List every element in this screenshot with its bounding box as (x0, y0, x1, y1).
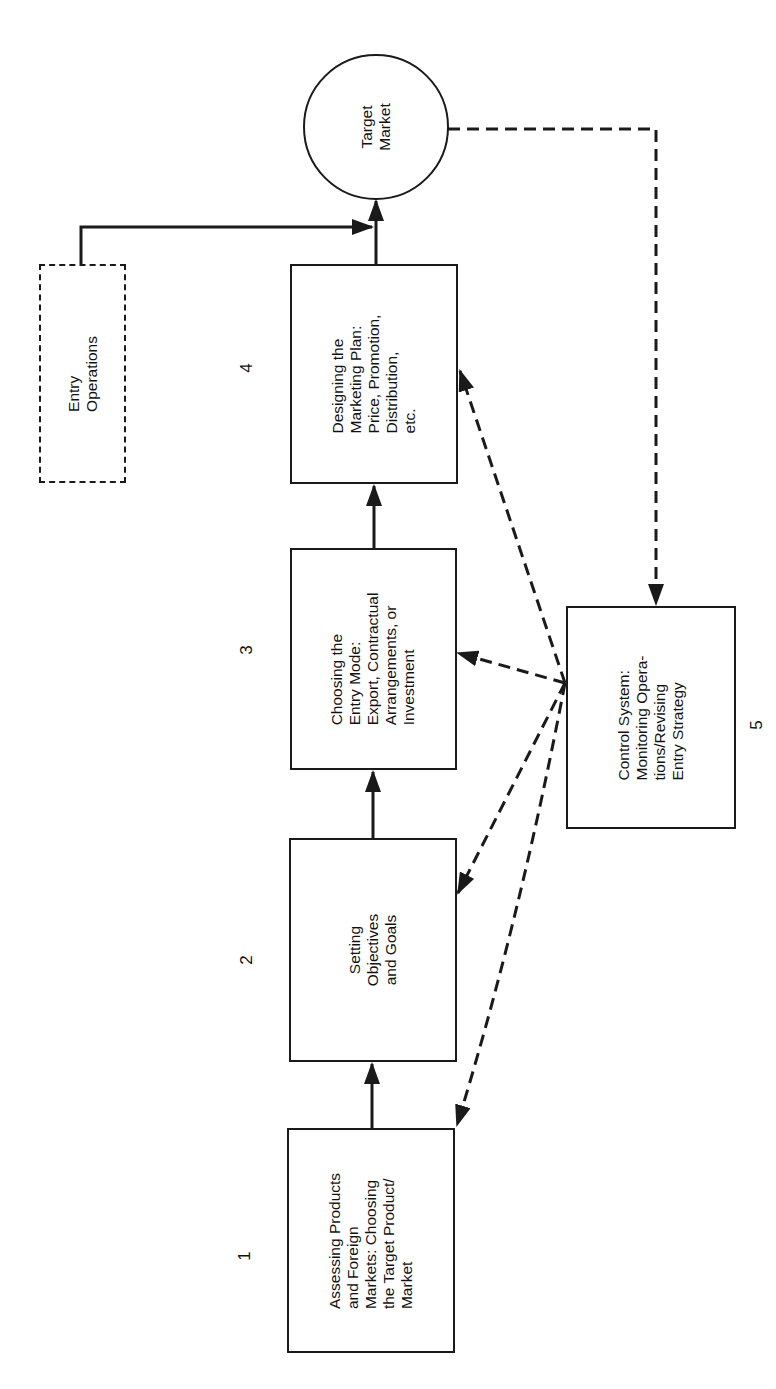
step3-number: 3 (237, 645, 257, 654)
step4-number: 4 (237, 363, 257, 372)
arrow-target-market-to-control (448, 129, 656, 604)
entry-operations-label: Entry Operations (64, 336, 100, 412)
step4-label: Designing the Marketing Plan: Price, Pro… (329, 315, 419, 434)
arrow-control-to-step2 (458, 683, 565, 893)
arrow-control-to-step1 (457, 683, 565, 1125)
step1-number: 1 (235, 1251, 255, 1260)
control-system-label: Control System: Monitoring Opera- tions/… (615, 655, 687, 780)
target-market-label: Target Market (358, 103, 394, 150)
arrow-entry-ops-to-target-market (81, 227, 372, 264)
arrow-control-to-step3 (458, 653, 565, 683)
step2-number: 2 (237, 955, 257, 964)
step2-label: Setting Objectives and Goals (346, 914, 400, 986)
step3-label: Choosing the Entry Mode: Export, Contrac… (329, 593, 419, 726)
arrow-control-to-step4 (460, 371, 565, 683)
step1-label: Assessing Products and Foreign Markets: … (326, 1172, 416, 1308)
step5-number: 5 (747, 720, 767, 729)
